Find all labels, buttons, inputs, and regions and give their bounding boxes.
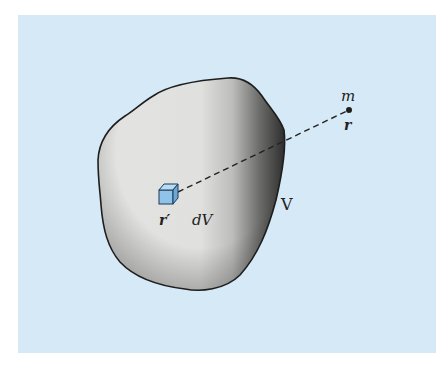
- label-r: r: [344, 117, 353, 133]
- label-r-prime: r′: [159, 212, 170, 228]
- volume-element-cube: [159, 184, 178, 204]
- volume-body: [98, 78, 285, 290]
- label-dV: dV: [192, 211, 215, 229]
- label-m: m: [341, 87, 355, 105]
- point-mass-dot: [346, 107, 352, 113]
- label-V: V: [280, 195, 293, 214]
- gravity-volume-diagram: m r r′ dV V: [0, 0, 440, 367]
